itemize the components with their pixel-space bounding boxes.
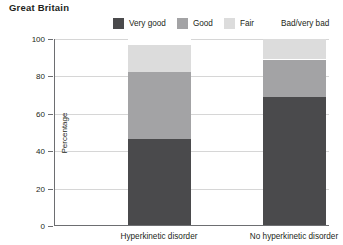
x-axis-tick-label: No hyperkinetic disorder <box>250 232 338 241</box>
legend-label-fair: Fair <box>240 18 254 29</box>
bar-segment-fair[interactable] <box>263 39 326 60</box>
bar-segment-very-good[interactable] <box>128 139 191 225</box>
legend-label-good: Good <box>193 18 213 29</box>
y-axis-tick-label: 80 <box>36 72 45 81</box>
legend-item-very-good[interactable]: Very good <box>113 18 166 29</box>
x-axis-tick-label: Hyperkinetic disorder <box>121 232 198 241</box>
bar-segment-bad-very-bad[interactable] <box>263 38 326 39</box>
legend-item-good[interactable]: Good <box>177 18 213 29</box>
y-axis-tick-label: 20 <box>36 184 45 193</box>
y-axis-tick <box>48 189 53 190</box>
legend-item-fair[interactable]: Fair <box>224 18 254 29</box>
page-title: Great Britain <box>9 2 69 13</box>
y-axis-tick-label: 100 <box>32 35 45 44</box>
legend-swatch-very-good <box>113 18 124 29</box>
bar-segment-bad-very-bad[interactable] <box>128 38 191 45</box>
bar-segment-fair[interactable] <box>128 45 191 71</box>
y-axis-tick <box>48 76 53 77</box>
legend-label-very-good: Very good <box>129 18 166 29</box>
y-axis-tick <box>48 39 53 40</box>
y-axis-tick <box>48 151 53 152</box>
legend-swatch-bad-very-bad <box>265 18 276 29</box>
legend-swatch-fair <box>224 18 235 29</box>
y-axis-line <box>54 39 55 226</box>
bar-segment-very-good[interactable] <box>263 97 326 225</box>
bar-column[interactable]: Hyperkinetic disorder <box>128 38 191 225</box>
chart-container: Great Britain Very good Good Fair Bad/ve… <box>0 0 343 245</box>
y-axis-tick-label: 40 <box>36 147 45 156</box>
x-axis-line <box>54 225 329 226</box>
plot-area: 020406080100 Percentage Hyperkinetic dis… <box>54 39 329 226</box>
y-axis-tick-label: 0 <box>41 222 45 231</box>
legend-item-bad-very-bad[interactable]: Bad/very bad <box>265 18 329 29</box>
bar-segment-good[interactable] <box>263 60 326 97</box>
y-axis-tick <box>48 226 53 227</box>
bar-segment-good[interactable] <box>128 72 191 139</box>
bar-column[interactable]: No hyperkinetic disorder <box>263 38 326 225</box>
y-axis-tick-label: 60 <box>36 109 45 118</box>
y-axis-label: Percentage <box>60 112 69 153</box>
legend-label-bad-very-bad: Bad/very bad <box>281 18 329 29</box>
chart-legend: Very good Good Fair Bad/very bad <box>113 17 329 29</box>
legend-swatch-good <box>177 18 188 29</box>
y-axis-tick <box>48 114 53 115</box>
